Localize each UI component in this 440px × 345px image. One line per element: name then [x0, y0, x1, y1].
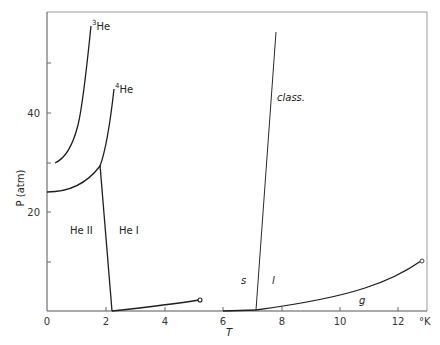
- x-tick-label: 0: [44, 316, 50, 327]
- he3-label: 3He: [92, 19, 110, 32]
- classical-vapor-curve: [256, 261, 421, 310]
- y-axis-title: P (atm): [15, 170, 26, 207]
- y-tick-label: 20: [27, 207, 40, 218]
- solid-label: s: [241, 275, 246, 286]
- phase-diagram-chart: 20 40 0 2 4 6 8 10 12 °K T P (atm) 3He 4…: [0, 0, 440, 345]
- he4-label: 4He: [115, 82, 133, 95]
- plot-frame: [47, 12, 427, 311]
- x-tick-label: 10: [334, 316, 347, 327]
- he3-melting-curve: [55, 26, 91, 163]
- x-tick-label: 8: [279, 316, 285, 327]
- liquid-label: l: [272, 275, 275, 286]
- x-tick-label: 12: [392, 316, 405, 327]
- he-ii-label: He II: [70, 225, 93, 236]
- classical-critical-point: [420, 259, 424, 263]
- he4-critical-point: [198, 298, 202, 302]
- classical-label: class.: [277, 92, 305, 103]
- classical-melting-curve: [256, 32, 276, 310]
- he4-melting-curve: [47, 89, 114, 192]
- x-axis-title: T: [226, 327, 233, 338]
- gas-label: g: [359, 295, 365, 306]
- x-unit-label: °K: [419, 316, 431, 327]
- x-tick-label: 2: [103, 316, 109, 327]
- he4-vapor-curve: [112, 300, 199, 311]
- he-i-label: He I: [119, 225, 139, 236]
- lambda-line: [100, 165, 112, 311]
- y-tick-label: 40: [27, 108, 40, 119]
- x-tick-label: 6: [220, 316, 226, 327]
- x-tick-label: 4: [162, 316, 168, 327]
- y-ticks: [47, 63, 51, 262]
